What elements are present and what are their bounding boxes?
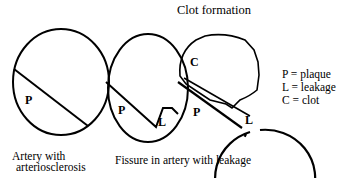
caption-artery-line2: arteriosclerosis <box>16 161 86 173</box>
legend-item-plaque: P = plaque <box>282 68 336 81</box>
panel2-leakage-label: L <box>158 115 166 129</box>
artery-1 <box>13 29 109 135</box>
artery-2 <box>106 34 188 142</box>
legend-item-clot: C = clot <box>282 94 336 107</box>
panel3-leakage-label: L <box>245 113 253 127</box>
diagram-title: Clot formation <box>177 4 251 16</box>
panel3-plaque-label: P <box>193 105 200 119</box>
caption-fissure: Fissure in artery with leakage <box>115 154 251 166</box>
panel2-plaque-label: P <box>118 103 125 117</box>
panel3-clot-label: C <box>190 55 199 69</box>
legend: P = plaque L = leakage C = clot <box>282 68 336 107</box>
legend-item-leakage: L = leakage <box>282 81 336 94</box>
panel1-plaque-label: P <box>25 93 32 107</box>
